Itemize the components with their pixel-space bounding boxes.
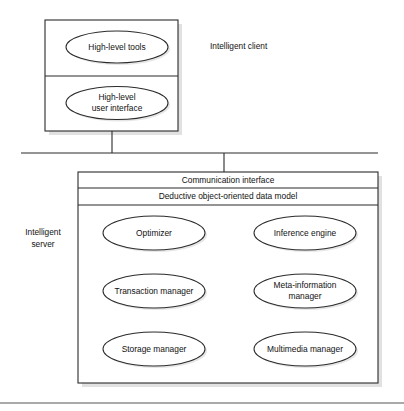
client-side-label: Intelligent client	[210, 41, 268, 51]
server-side-label-line1: Intelligent	[25, 227, 61, 237]
high-level-user-interface-label-line1: High-level	[98, 92, 135, 102]
storage-manager-label: Storage manager	[122, 344, 187, 354]
optimizer-label: Optimizer	[136, 228, 172, 238]
meta-information-manager-label-line2: manager	[288, 291, 321, 301]
client-box-group: High-level tools High-level user interfa…	[45, 20, 182, 135]
transaction-manager-label: Transaction manager	[115, 286, 194, 296]
diagram-canvas: High-level tools High-level user interfa…	[0, 0, 404, 411]
server-side-label-line2: server	[31, 239, 54, 249]
high-level-tools-label: High-level tools	[88, 42, 145, 52]
multimedia-manager-label: Multimedia manager	[267, 344, 343, 354]
inference-engine-label: Inference engine	[274, 228, 337, 238]
communication-interface-label: Communication interface	[182, 175, 275, 185]
architecture-diagram: High-level tools High-level user interfa…	[0, 0, 404, 411]
data-model-label: Deductive object-oriented data model	[159, 191, 298, 201]
meta-information-manager-label-line1: Meta-information	[274, 280, 337, 290]
server-box-group: Communication interface Deductive object…	[78, 172, 382, 387]
high-level-user-interface-label-line2: user interface	[92, 103, 143, 113]
